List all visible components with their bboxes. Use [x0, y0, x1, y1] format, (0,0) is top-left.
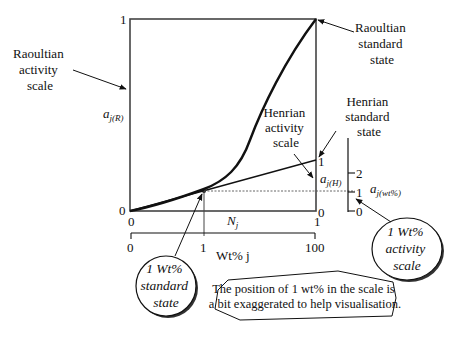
henrian-standard-state-label: Henrian standard state [345, 94, 392, 139]
wt-activity-axis-symbol: aj(wt%) [370, 181, 401, 198]
raoultian-tick-0: 0 [119, 203, 126, 218]
henrian-standard-arrow [319, 131, 336, 157]
wt-axis-title: Wt% j [216, 248, 250, 263]
wt-axis-label-1: 1 [200, 240, 207, 255]
raoultian-axis-symbol: aj(R) [103, 106, 124, 123]
raoultian-activity-scale-label: Raoultian activity scale [13, 46, 67, 93]
wt-axis-label-100: 100 [305, 240, 325, 255]
standard-state-bubble-arrow [175, 194, 202, 256]
mole-fraction-tick-1: 1 [314, 214, 321, 229]
wt-activity-label-0: 0 [356, 204, 363, 219]
wt-axis-label-0: 0 [127, 240, 134, 255]
raoultian-standard-state-label: Raoultian standard state [355, 20, 409, 67]
henrian-line [130, 160, 316, 211]
note-text: The position of 1 wt% in the scale is a … [209, 282, 401, 311]
henrian-scale-arrow [294, 154, 313, 178]
wt-activity-label-1: 1 [356, 185, 363, 200]
henrian-axis-symbol: aj(H) [320, 171, 342, 188]
raoultian-tick-1: 1 [120, 12, 127, 27]
activity-scales-diagram: 1 0 aj(R) Raoultian activity scale Raoul… [0, 0, 470, 337]
mole-fraction-axis-label: Nj [226, 213, 239, 230]
wt-activity-label-2: 2 [356, 166, 363, 181]
henrian-activity-scale-label: Henrian activity scale [263, 105, 308, 150]
mole-fraction-tick-0: 0 [128, 214, 135, 229]
raoultian-scale-arrow [73, 70, 126, 89]
raoultian-standard-arrow [318, 20, 354, 32]
